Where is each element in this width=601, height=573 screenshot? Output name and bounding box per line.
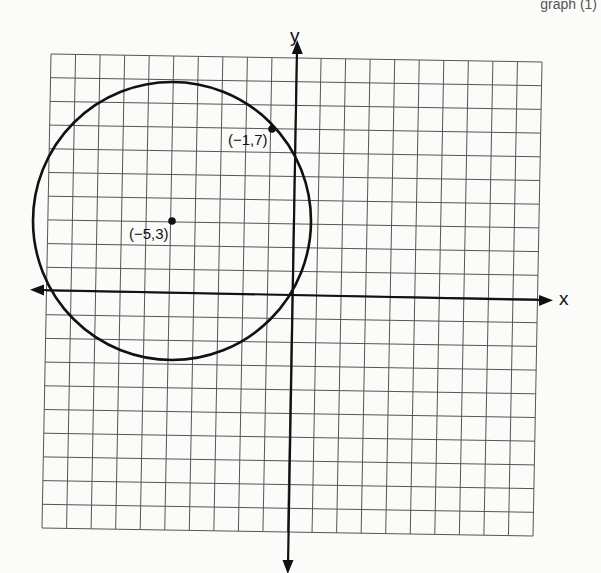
y-axis [283,40,303,573]
y-axis-label: y [290,25,300,47]
x-axis-left-arrow-icon [30,285,44,296]
coordinate-graph: graph (1) y x (−1,7) (−5,3) [0,0,601,573]
x-axis-label: x [559,288,569,310]
point-neg1-7 [268,125,276,133]
point-label-neg1-7: (−1,7) [228,131,268,148]
center-point [168,217,176,225]
x-axis-right-arrow-icon [539,295,553,306]
point-label-center: (−5,3) [129,225,169,242]
y-axis-down-arrow-icon [283,560,294,573]
